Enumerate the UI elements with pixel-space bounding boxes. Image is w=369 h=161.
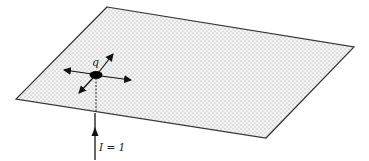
diagram-canvas: q I = 1 — [0, 0, 369, 161]
current-arrow-icon — [92, 127, 99, 136]
conducting-plane — [16, 7, 354, 138]
current-label: I = 1 — [98, 141, 125, 153]
plane-diagram: q I = 1 — [0, 0, 369, 161]
charge-point — [90, 71, 103, 79]
charge-label: q — [92, 56, 99, 69]
